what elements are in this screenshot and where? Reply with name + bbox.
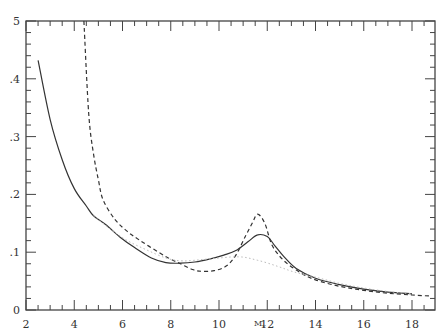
x-tick-label: 8 bbox=[167, 318, 174, 331]
x-tick-label: 10 bbox=[212, 318, 226, 331]
x-tick-label: 16 bbox=[357, 318, 371, 331]
x-tick-label: 2 bbox=[23, 318, 30, 331]
y-tick-label: 5 bbox=[13, 15, 20, 28]
y-tick-label: .1 bbox=[10, 246, 21, 259]
series-dashed-line bbox=[84, 21, 431, 296]
axis-ticks bbox=[26, 21, 435, 310]
chart: 246810121416180.1.2.3.45 Mv bbox=[0, 0, 448, 336]
x-tick-label: 18 bbox=[405, 318, 419, 331]
x-tick-label: 14 bbox=[309, 318, 323, 331]
x-tick-label: 4 bbox=[71, 318, 78, 331]
y-tick-label: 0 bbox=[13, 304, 20, 317]
y-tick-label: .2 bbox=[10, 188, 21, 201]
plot-border bbox=[26, 21, 435, 310]
x-tick-label: 6 bbox=[119, 318, 126, 331]
series-dotted-line bbox=[94, 216, 413, 294]
plot-frame bbox=[26, 21, 435, 310]
axis-tick-labels: 246810121416180.1.2.3.45 bbox=[10, 15, 420, 331]
y-tick-label: .4 bbox=[10, 73, 21, 86]
series-solid-line bbox=[38, 60, 412, 293]
y-tick-label: .3 bbox=[10, 131, 21, 144]
data-series bbox=[38, 21, 431, 296]
